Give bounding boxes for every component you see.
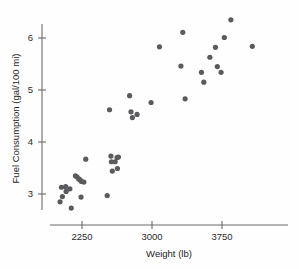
x-tick-label: 3750 [211, 231, 232, 242]
data-point [127, 93, 132, 98]
y-axis-title: Fuel Consumption (gal/100 mi) [10, 54, 21, 184]
data-point [130, 115, 135, 120]
data-point [207, 55, 212, 60]
axis-labels: Weight (lb)Fuel Consumption (gal/100 mi) [10, 54, 192, 259]
data-point [148, 100, 153, 105]
y-tick-label: 4 [28, 136, 33, 147]
data-point [215, 64, 220, 69]
data-point [67, 186, 72, 191]
data-point [199, 70, 204, 75]
data-point [110, 169, 115, 174]
x-axis-title: Weight (lb) [146, 248, 192, 259]
x-axis: 225030003750 [50, 221, 288, 242]
data-point [107, 107, 112, 112]
data-point [60, 194, 65, 199]
x-tick-label: 3000 [141, 231, 162, 242]
data-point [178, 63, 183, 68]
data-point [128, 109, 133, 114]
data-points [57, 17, 254, 210]
data-point [83, 157, 88, 162]
data-point [228, 17, 233, 22]
data-point [116, 154, 121, 159]
data-point [115, 166, 120, 171]
data-point [183, 96, 188, 101]
data-point [78, 195, 83, 200]
y-tick-label: 5 [28, 84, 33, 95]
data-point [69, 205, 74, 210]
data-point [201, 80, 206, 85]
data-point [105, 193, 110, 198]
data-point [180, 30, 185, 35]
data-point [213, 45, 218, 50]
scatter-plot-figure: 3456 225030003750 Weight (lb)Fuel Consum… [0, 0, 299, 269]
y-tick-label: 6 [28, 32, 33, 43]
data-point [81, 179, 86, 184]
data-point [57, 199, 62, 204]
y-tick-label: 3 [28, 188, 33, 199]
data-point [157, 44, 162, 49]
data-point [108, 153, 113, 158]
data-point [222, 35, 227, 40]
data-point [134, 112, 139, 117]
x-tick-label: 2250 [71, 231, 92, 242]
y-axis: 3456 [28, 24, 46, 210]
data-point [250, 44, 255, 49]
data-point [218, 70, 223, 75]
plot-canvas: 3456 225030003750 Weight (lb)Fuel Consum… [0, 0, 299, 269]
